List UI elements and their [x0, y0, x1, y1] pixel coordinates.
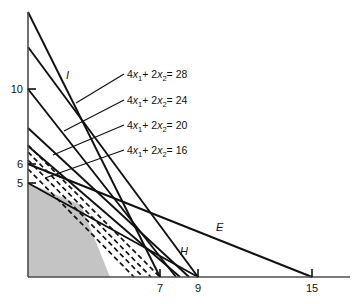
objective-label-20: 4x1+ 2x2= 20 — [127, 119, 187, 134]
x-tick-label-9: 9 — [195, 282, 201, 294]
svg-text:4x1+ 2x2= 16: 4x1+ 2x2= 16 — [127, 144, 187, 159]
obj20-plus: + 2 — [142, 119, 157, 131]
svg-text:4x1+ 2x2= 20: 4x1+ 2x2= 20 — [127, 119, 187, 134]
obj16-plus: + 2 — [142, 144, 157, 156]
svg-text:4x1+ 2x2= 28: 4x1+ 2x2= 28 — [127, 68, 187, 83]
y-tick-label-6: 6 — [17, 158, 23, 170]
x-tick-label-7: 7 — [157, 282, 163, 294]
linear-programming-chart: 10 6 5 7 9 15 I E H 4x1+ 2x2= 28 4x1+ 2x… — [0, 0, 358, 304]
y-tick-label-5: 5 — [17, 177, 23, 189]
obj28-plus: + 2 — [142, 68, 157, 80]
curve-label-E: E — [216, 221, 224, 233]
obj16-eq: = 16 — [167, 144, 188, 156]
objective-label-24: 4x1+ 2x2= 24 — [127, 94, 187, 109]
x-tick-label-15: 15 — [306, 282, 318, 294]
curve-label-H: H — [180, 245, 188, 257]
y-tick-label-10: 10 — [11, 83, 23, 95]
obj28-eq: = 28 — [167, 68, 188, 80]
curve-label-I: I — [66, 69, 69, 81]
obj24-eq: = 24 — [167, 94, 188, 106]
objective-label-16: 4x1+ 2x2= 16 — [127, 144, 187, 159]
objective-label-28: 4x1+ 2x2= 28 — [127, 68, 187, 83]
svg-text:4x1+ 2x2= 24: 4x1+ 2x2= 24 — [127, 94, 187, 109]
leader-line-24 — [64, 100, 124, 131]
obj20-eq: = 20 — [167, 119, 188, 131]
chart-svg: 10 6 5 7 9 15 I E H 4x1+ 2x2= 28 4x1+ 2x… — [0, 0, 358, 304]
obj24-plus: + 2 — [142, 94, 157, 106]
leader-line-28 — [76, 74, 124, 103]
